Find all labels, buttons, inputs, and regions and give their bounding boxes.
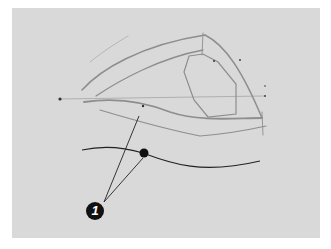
callout-number-badge: 1 [86,202,104,220]
wavy-line [82,147,260,167]
marker-dot [140,149,149,158]
eye-sketch [0,0,331,249]
